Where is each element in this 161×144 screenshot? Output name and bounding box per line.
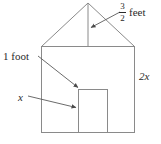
fraction-denominator: 2	[119, 14, 126, 23]
x-arrow	[28, 96, 76, 108]
one-foot-arrow	[38, 56, 78, 88]
fraction-three-halves: 3 2	[119, 2, 126, 23]
label-one-foot: 1 foot	[3, 51, 29, 62]
label-two-x: 2x	[139, 71, 149, 82]
label-x: x	[18, 92, 23, 103]
door-rectangle	[79, 90, 108, 133]
label-roof-height: 3 2 feet	[119, 2, 145, 23]
fraction-numerator: 3	[119, 2, 126, 11]
house-geometry-figure: 1 foot x 2x 3 2 feet	[0, 0, 161, 144]
roof-height-arrow	[91, 12, 120, 28]
label-unit-feet: feet	[129, 7, 145, 18]
